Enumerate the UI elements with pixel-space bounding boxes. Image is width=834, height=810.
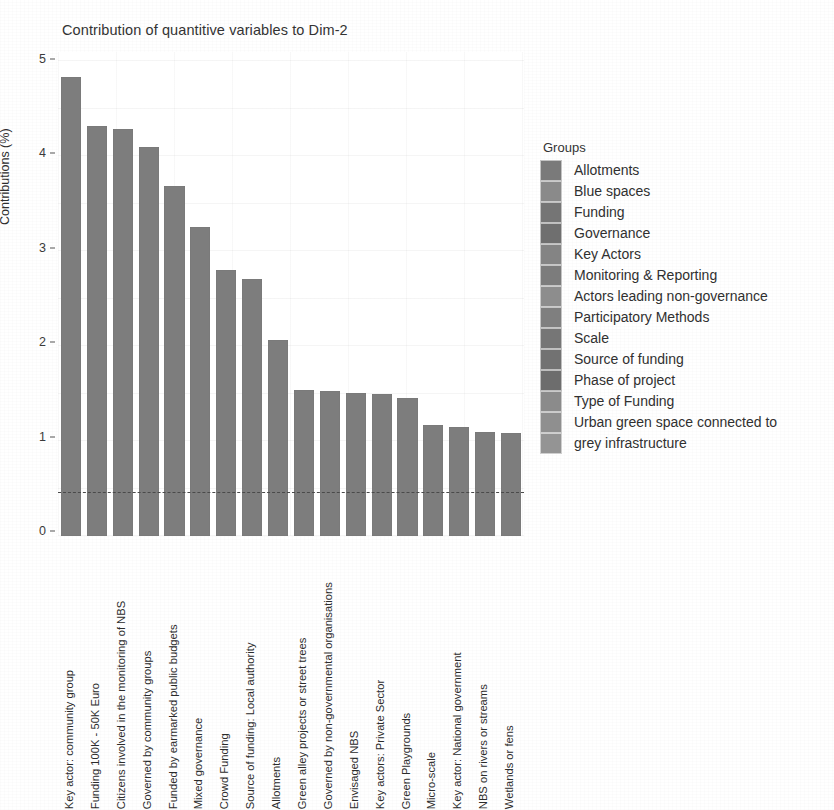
- x-axis-tick-label: Green Playgrounds: [400, 713, 411, 809]
- bar: [216, 270, 236, 536]
- legend-item[interactable]: Allotments: [540, 160, 830, 181]
- bar: [449, 427, 469, 536]
- x-axis-tick-label: Envisaged NBS: [349, 731, 360, 809]
- x-axis-tick-label: Key actor: National government: [452, 652, 463, 809]
- x-axis-tick-label: NBS on rivers or streams: [478, 684, 489, 809]
- bar: [164, 186, 184, 536]
- y-axis-tick-label: 3: [39, 241, 46, 255]
- x-axis-tick-label: Key actors: Private Sector: [374, 680, 385, 809]
- bar: [320, 391, 340, 536]
- y-axis-tick-label: 5: [39, 52, 46, 66]
- bar: [501, 433, 521, 536]
- bar: [87, 126, 107, 536]
- legend-item[interactable]: Governance: [540, 223, 830, 244]
- legend-item-label: Funding: [574, 202, 625, 223]
- x-axis-tick-label: Green alley projects or street trees: [297, 638, 308, 810]
- legend-item-label: Governance: [574, 223, 650, 244]
- chart-legend: Groups AllotmentsBlue spacesFundingGover…: [540, 140, 830, 454]
- y-axis-tick-mark: [50, 59, 55, 60]
- legend-rows: AllotmentsBlue spacesFundingGovernanceKe…: [540, 160, 830, 454]
- legend-item[interactable]: Scale: [540, 328, 830, 349]
- bar: [294, 390, 314, 536]
- legend-color-swatch: [540, 307, 562, 328]
- chart-figure: Contribution of quantitive variables to …: [0, 0, 834, 810]
- legend-item[interactable]: Blue spaces: [540, 181, 830, 202]
- y-axis-tick-label: 1: [39, 430, 46, 444]
- x-axis-tick-label: Source of funding: Local authority: [245, 643, 256, 810]
- legend-item-label: Urban green space connected to: [574, 412, 777, 433]
- legend-color-swatch: [540, 349, 562, 370]
- x-axis-tick-label: Governed by community groups: [141, 651, 152, 810]
- y-axis-tick-label: 4: [39, 146, 46, 160]
- x-axis-tick-label: Funding 100K - 50K Euro: [90, 683, 101, 809]
- legend-color-swatch: [540, 223, 562, 244]
- x-axis-tick-label: Micro-scale: [426, 752, 437, 809]
- y-axis-tick-label: 0: [39, 524, 46, 538]
- chart-title: Contribution of quantitive variables to …: [62, 22, 348, 38]
- legend-item-label: Type of Funding: [574, 391, 674, 412]
- bar: [372, 394, 392, 536]
- y-axis-tick-mark: [50, 531, 55, 532]
- legend-color-swatch: [540, 370, 562, 391]
- legend-title: Groups: [543, 140, 830, 155]
- bars-layer: [58, 52, 524, 536]
- bar: [475, 432, 495, 536]
- legend-item[interactable]: grey infrastructure: [540, 433, 830, 454]
- y-axis-tick-mark: [50, 247, 55, 248]
- legend-color-swatch: [540, 433, 562, 454]
- plot-panel: [58, 52, 524, 536]
- bar: [139, 147, 159, 536]
- bar: [346, 393, 366, 536]
- legend-item-label: Monitoring & Reporting: [574, 265, 717, 286]
- legend-color-swatch: [540, 244, 562, 265]
- legend-item-label: Phase of project: [574, 370, 675, 391]
- x-axis-tick-label: Allotments: [271, 757, 282, 809]
- legend-item-label: Scale: [574, 328, 609, 349]
- legend-color-swatch: [540, 286, 562, 307]
- x-axis-tick-label: Governed by non-governmental organisatio…: [323, 582, 334, 809]
- legend-item[interactable]: Funding: [540, 202, 830, 223]
- y-axis-tick-label: 2: [39, 335, 46, 349]
- legend-color-swatch: [540, 412, 562, 433]
- y-axis-title: Contributions (%): [0, 128, 12, 225]
- legend-color-swatch: [540, 265, 562, 286]
- legend-item[interactable]: Phase of project: [540, 370, 830, 391]
- legend-color-swatch: [540, 202, 562, 223]
- bar: [190, 227, 210, 536]
- legend-item[interactable]: Monitoring & Reporting: [540, 265, 830, 286]
- bar: [423, 425, 443, 536]
- legend-item[interactable]: Source of funding: [540, 349, 830, 370]
- y-axis-tick-mark: [50, 342, 55, 343]
- x-axis-tick-label: Wetlands or fens: [504, 725, 515, 809]
- legend-color-swatch: [540, 181, 562, 202]
- bar: [113, 129, 133, 536]
- legend-item-label: Blue spaces: [574, 181, 650, 202]
- legend-item-label: Allotments: [574, 160, 639, 181]
- legend-item[interactable]: Key Actors: [540, 244, 830, 265]
- bar: [397, 398, 417, 536]
- bar: [268, 340, 288, 536]
- legend-color-swatch: [540, 391, 562, 412]
- legend-item[interactable]: Urban green space connected to: [540, 412, 830, 433]
- legend-item-label: Key Actors: [574, 244, 641, 265]
- x-axis-tick-label: Citizens involved in the monitoring of N…: [116, 601, 127, 809]
- bar: [61, 77, 81, 536]
- legend-item[interactable]: Actors leading non-governance: [540, 286, 830, 307]
- bar: [242, 279, 262, 536]
- x-axis-labels: Key actor: community groupFunding 100K -…: [58, 540, 524, 806]
- x-axis-tick-label: Key actor: community group: [64, 670, 75, 809]
- legend-item-label: grey infrastructure: [574, 433, 687, 454]
- legend-item-label: Actors leading non-governance: [574, 286, 768, 307]
- y-axis-tick-mark: [50, 153, 55, 154]
- legend-item[interactable]: Participatory Methods: [540, 307, 830, 328]
- x-axis-tick-label: Crowd Funding: [219, 733, 230, 809]
- legend-item-label: Source of funding: [574, 349, 684, 370]
- legend-item-label: Participatory Methods: [574, 307, 709, 328]
- legend-color-swatch: [540, 160, 562, 181]
- legend-item[interactable]: Type of Funding: [540, 391, 830, 412]
- reference-line: [58, 492, 524, 493]
- legend-color-swatch: [540, 328, 562, 349]
- x-axis-tick-label: Mixed governance: [193, 718, 204, 809]
- y-axis-tick-mark: [50, 436, 55, 437]
- x-axis-tick-label: Funded by earmarked public budgets: [167, 624, 178, 809]
